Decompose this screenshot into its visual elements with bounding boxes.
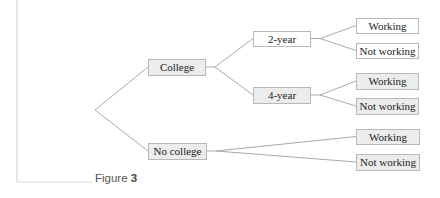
node-label: Working xyxy=(368,75,407,87)
edge-to-no-college-not-working xyxy=(216,151,356,162)
edge-to-no-college-working xyxy=(216,137,356,152)
edge-to-four-year-not-working xyxy=(320,95,356,106)
node-two-year-working: Working xyxy=(357,19,419,34)
node-no-college: No college xyxy=(149,144,207,160)
node-label: 2-year xyxy=(268,33,296,45)
figure-caption-number: 3 xyxy=(131,172,137,184)
node-label: Working xyxy=(369,131,408,143)
node-four-year: 4-year xyxy=(254,88,311,104)
node-college: College xyxy=(149,60,206,76)
figure-caption: Figure 3 xyxy=(95,172,137,184)
edge-to-college xyxy=(95,67,148,110)
node-label: Not working xyxy=(360,45,416,57)
edge-to-no-college xyxy=(95,110,148,151)
edge-to-two-year-working xyxy=(320,26,356,39)
edges xyxy=(95,26,356,163)
node-label: Not working xyxy=(360,156,416,168)
node-label: College xyxy=(160,61,194,73)
edge-to-four-year-working xyxy=(320,81,356,95)
figure-caption-prefix: Figure xyxy=(95,172,128,184)
edge-to-two-year-not-working xyxy=(320,39,356,51)
node-four-year-not-working: Not working xyxy=(357,99,419,115)
edge-to-four-year xyxy=(215,67,253,95)
tree-diagram: College2-yearWorkingNot working4-yearWor… xyxy=(0,0,440,198)
node-label: No college xyxy=(154,145,202,157)
edge-to-two-year xyxy=(215,39,253,68)
node-label: Not working xyxy=(360,100,416,112)
node-label: 4-year xyxy=(268,89,296,101)
node-four-year-working: Working xyxy=(357,74,419,90)
node-label: Working xyxy=(368,20,407,32)
node-two-year-not-working: Not working xyxy=(357,44,419,59)
node-no-college-not-working: Not working xyxy=(357,155,420,171)
node-two-year: 2-year xyxy=(254,32,311,47)
node-no-college-working: Working xyxy=(357,130,420,145)
nodes: College2-yearWorkingNot working4-yearWor… xyxy=(149,19,420,171)
